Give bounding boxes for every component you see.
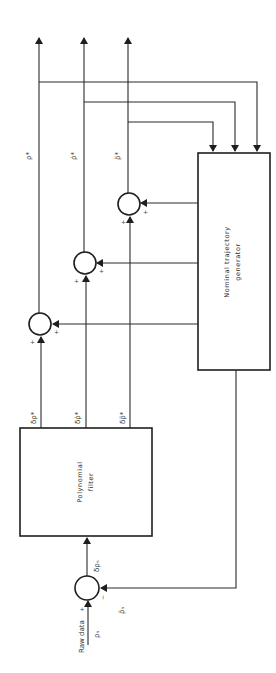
- error-signal-label: δρₙ: [93, 560, 101, 572]
- feedback-minus-sign: −: [99, 595, 106, 600]
- plus-sign: +: [99, 267, 104, 274]
- raw-data-signal-label: ρₙ: [93, 631, 101, 638]
- filter-output-label-delta-rho: δρ*: [30, 411, 38, 424]
- output-label-rho: ρ*: [25, 152, 33, 160]
- plus-sign: +: [30, 338, 35, 345]
- nominal-trajectory-generator-block: Nominal trajectory generator: [198, 153, 270, 370]
- plus-sign: +: [54, 328, 59, 335]
- polynomial-filter-block: Polynomial filter: [20, 428, 152, 536]
- input-summing-junction: [75, 576, 99, 600]
- filter-output-label-delta-rho-dot: δρ̇*: [74, 411, 82, 424]
- feedback-tap-rho-dot: [84, 102, 235, 151]
- output-label-rho-ddot: ρ̈*: [114, 152, 122, 160]
- plus-sign: +: [121, 218, 126, 225]
- ntg-label-line1: Nominal trajectory: [223, 226, 231, 297]
- plus-sign: +: [74, 277, 79, 284]
- summing-junction-rho-dot: + +: [74, 252, 104, 284]
- feedback-signal-label: ρ̄ₙ: [118, 607, 126, 614]
- block-diagram: Nominal trajectory generator + + + + + +…: [0, 0, 276, 673]
- plus-sign: +: [143, 208, 148, 215]
- filter-label-line2: filter: [87, 473, 95, 492]
- output-label-rho-dot: ρ̇*: [70, 152, 78, 160]
- feedback-tap-rho: [39, 82, 257, 151]
- raw-data-plus-sign: +: [78, 607, 85, 612]
- filter-label-line1: Polynomial: [76, 461, 84, 502]
- summing-junction-rho: + +: [29, 313, 59, 345]
- raw-data-label: Raw data: [78, 620, 86, 653]
- ntg-label-line2: generator: [234, 243, 242, 281]
- filter-output-label-delta-rho-ddot: δρ̈*: [119, 411, 127, 424]
- summing-junction-rho-ddot: + +: [118, 193, 148, 225]
- feedback-tap-rho-ddot: [128, 122, 213, 151]
